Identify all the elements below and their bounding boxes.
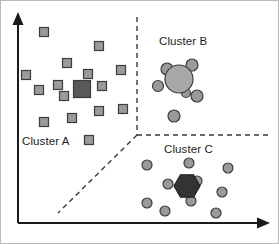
- cluster-member-square: [95, 107, 104, 116]
- cluster-member-circle: [184, 158, 194, 168]
- cluster-member-circle: [153, 81, 164, 92]
- series-cluster-c: [142, 158, 233, 218]
- cluster-diagram-figure: Cluster A Cluster B Cluster C: [0, 0, 279, 244]
- cluster-member-circle: [160, 206, 170, 216]
- cluster-member-circle: [168, 110, 180, 122]
- series-cluster-a: [22, 28, 128, 145]
- cluster-member-circle: [217, 187, 227, 197]
- cluster-centroid-circle: [165, 65, 193, 93]
- y-axis-arrowhead: [13, 12, 24, 25]
- cluster-member-circle: [223, 163, 233, 173]
- cluster-b-label: Cluster B: [159, 35, 207, 47]
- cluster-member-square: [119, 105, 128, 114]
- series-cluster-b: [153, 59, 204, 122]
- cluster-c-label: Cluster C: [164, 143, 213, 155]
- cluster-member-square: [95, 42, 104, 51]
- cluster-member-square: [84, 70, 93, 79]
- cluster-member-square: [22, 71, 31, 80]
- cluster-member-square: [40, 28, 49, 37]
- data-markers-layer: [22, 28, 234, 219]
- cluster-member-square: [117, 66, 126, 75]
- cluster-member-square: [85, 136, 94, 145]
- cluster-member-square: [60, 92, 69, 101]
- cluster-member-circle: [163, 179, 173, 189]
- cluster-centroid-hexagon: [174, 175, 200, 198]
- x-axis-arrowhead: [257, 218, 270, 229]
- cluster-member-circle: [191, 90, 203, 102]
- diagram-canvas: [1, 1, 279, 244]
- cluster-member-square: [68, 114, 77, 123]
- cluster-member-square: [63, 59, 72, 68]
- cluster-member-circle: [142, 198, 152, 208]
- axes-layer: [13, 12, 271, 229]
- cluster-a-label: Cluster A: [22, 135, 70, 147]
- cluster-member-circle: [142, 160, 152, 170]
- cluster-member-square: [35, 86, 44, 95]
- cluster-member-square: [54, 81, 63, 90]
- cluster-member-circle: [211, 208, 221, 218]
- cluster-member-square: [40, 118, 49, 127]
- cluster-member-square: [98, 82, 107, 91]
- cluster-centroid-square: [74, 81, 91, 98]
